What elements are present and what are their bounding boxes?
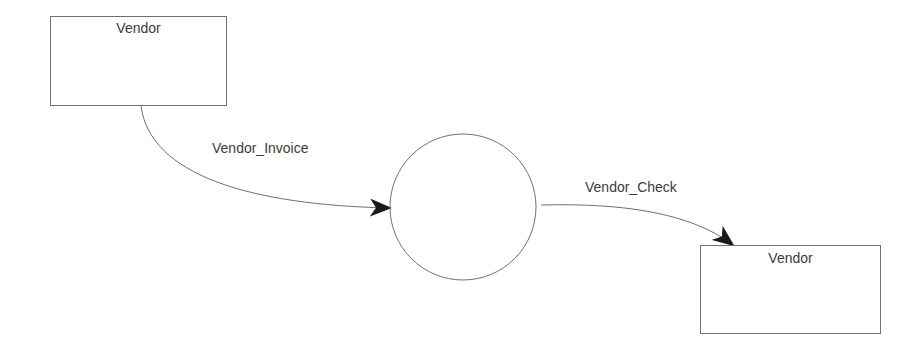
flow-vendor-invoice-line [141, 106, 390, 208]
flow-vendor-check-label: Vendor_Check [585, 179, 677, 195]
process-circle [390, 134, 536, 280]
vendor-sink-entity: Vendor [700, 245, 881, 334]
vendor-sink-label: Vendor [701, 250, 880, 266]
vendor-source-label: Vendor [51, 20, 226, 36]
flow-vendor-check-line [541, 205, 733, 245]
flow-vendor-invoice-label: Vendor_Invoice [212, 140, 309, 156]
vendor-source-entity: Vendor [50, 16, 227, 106]
